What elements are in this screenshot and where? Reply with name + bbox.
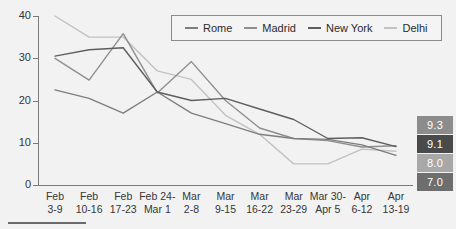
x-tick-label-line: 13-19: [368, 203, 424, 216]
y-tick-label: 0: [5, 179, 31, 190]
y-tick-label: 40: [5, 10, 31, 21]
end-value-badge-delhi: 8.0: [417, 154, 453, 172]
legend-line-icon: [244, 27, 257, 29]
legend-item-rome[interactable]: Rome: [185, 23, 232, 34]
y-tick-label: 10: [5, 137, 31, 148]
x-tick-label-line: Apr: [368, 190, 424, 203]
series-line-new-york: [55, 48, 396, 147]
legend-item-delhi[interactable]: Delhi: [384, 23, 427, 34]
legend-line-icon: [308, 27, 321, 29]
legend-item-madrid[interactable]: Madrid: [244, 23, 296, 34]
y-tick-mark: [33, 58, 38, 59]
legend-label: Delhi: [402, 23, 427, 34]
y-tick-mark: [33, 16, 38, 17]
series-line-madrid: [55, 34, 396, 147]
legend-line-icon: [384, 27, 397, 29]
y-tick-label: 30: [5, 52, 31, 63]
line-chart: 010203040 Feb3-9Feb10-16Feb17-23Feb 24-M…: [0, 0, 456, 229]
legend-item-new-york[interactable]: New York: [308, 23, 372, 34]
end-value-badge-madrid: 9.3: [417, 116, 453, 134]
y-tick-label: 20: [5, 95, 31, 106]
end-value-badge-new-york: 9.1: [417, 135, 453, 153]
legend-line-icon: [185, 27, 198, 29]
y-tick-mark: [33, 101, 38, 102]
y-tick-mark: [33, 143, 38, 144]
y-tick-mark: [33, 185, 38, 186]
legend-label: New York: [326, 23, 372, 34]
legend-label: Rome: [203, 23, 232, 34]
x-tick-label: Apr13-19: [368, 190, 424, 216]
end-value-badge-rome: 7.0: [417, 173, 453, 191]
chart-legend: RomeMadridNew YorkDelhi: [171, 15, 442, 41]
x-axis-labels: Feb3-9Feb10-16Feb17-23Feb 24-Mar 1Mar2-8…: [38, 190, 413, 222]
legend-label: Madrid: [262, 23, 296, 34]
footer-divider: [8, 222, 86, 224]
end-value-badges: 9.39.18.07.0: [417, 116, 453, 192]
